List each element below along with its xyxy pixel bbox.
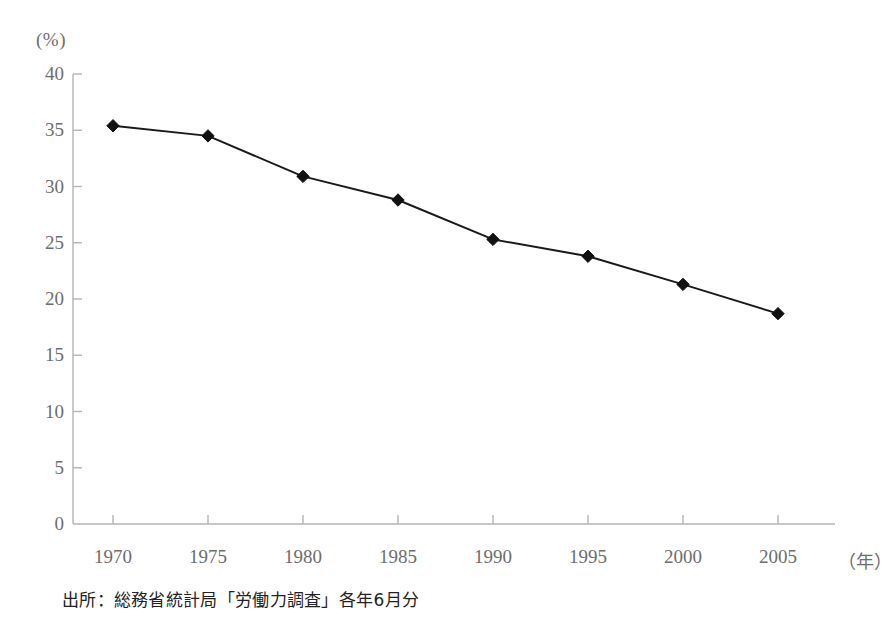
line-chart-plot [0,0,890,641]
source-note: 出所：総務省統計局「労働力調査」各年6月分 [62,586,419,611]
chart-figure: (%) （年） 0510152025303540 197019751980198… [0,0,890,641]
